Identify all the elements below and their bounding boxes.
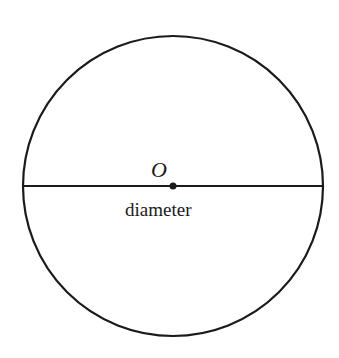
center-label: O xyxy=(151,157,167,182)
diameter-label: diameter xyxy=(125,199,192,220)
center-point xyxy=(170,183,177,190)
circle-diagram: O diameter xyxy=(0,0,339,358)
